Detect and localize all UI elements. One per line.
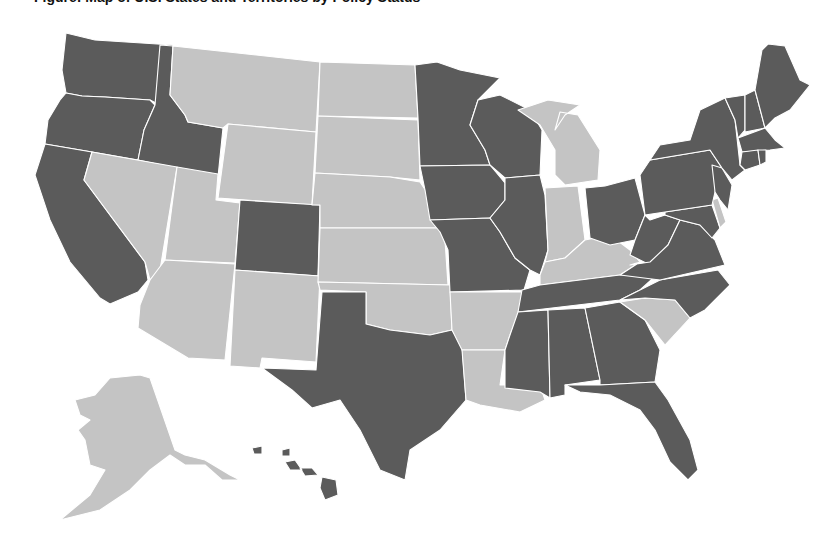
state-colorado[interactable] xyxy=(235,200,320,276)
state-kansas[interactable] xyxy=(318,228,448,285)
state-iowa[interactable] xyxy=(420,165,505,220)
state-south-dakota[interactable] xyxy=(315,116,420,180)
state-north-dakota[interactable] xyxy=(318,62,418,118)
state-florida[interactable] xyxy=(565,382,698,480)
state-ohio[interactable] xyxy=(585,178,645,245)
state-alaska[interactable] xyxy=(60,375,240,520)
state-new-mexico[interactable] xyxy=(230,270,320,368)
state-nebraska[interactable] xyxy=(312,173,440,228)
state-connecticut[interactable] xyxy=(740,150,760,170)
us-states-map xyxy=(0,0,830,537)
state-rhode-island[interactable] xyxy=(758,150,766,165)
state-montana[interactable] xyxy=(170,46,320,132)
state-wyoming[interactable] xyxy=(218,124,316,205)
state-hawaii[interactable] xyxy=(252,446,338,500)
state-maine[interactable] xyxy=(755,44,810,128)
